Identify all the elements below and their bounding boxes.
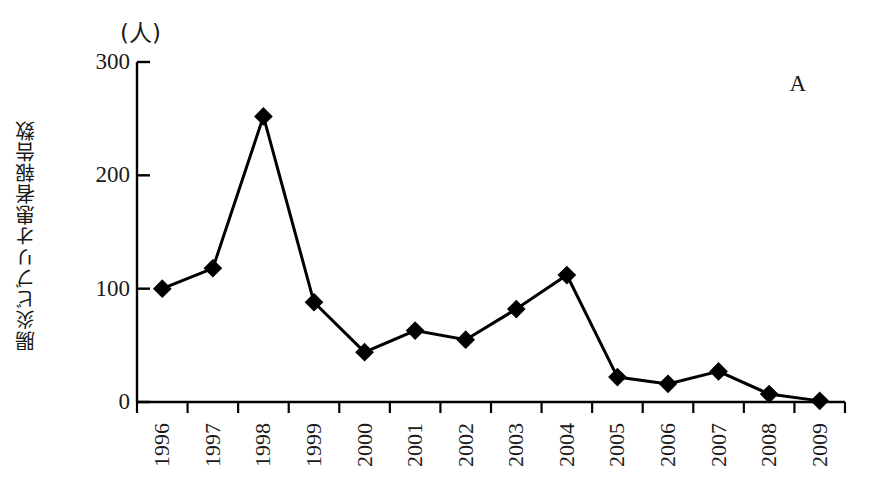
x-axis-tick-label-text: 2004 <box>556 423 578 467</box>
data-point-marker <box>154 280 171 297</box>
x-axis-tick-label-text: 1996 <box>151 423 173 467</box>
x-axis-tick-label-text: 2006 <box>657 423 679 467</box>
data-point-marker <box>761 386 778 403</box>
x-axis-tick-label: 2005 <box>604 404 630 484</box>
data-series <box>162 116 819 400</box>
x-axis-tick-label: 2008 <box>756 404 782 484</box>
x-axis-tick-label-text: 1999 <box>303 423 325 467</box>
y-axis-tick-label: 100 <box>70 277 130 300</box>
x-axis-tick-label: 1996 <box>149 404 175 484</box>
data-point-marker <box>457 331 474 348</box>
x-axis-tick-label-text: 2002 <box>455 423 477 467</box>
data-point-marker <box>407 322 424 339</box>
y-axis-title-text: 腸炎ビブリオ患者報告数 <box>11 120 40 351</box>
x-axis-tick-label: 2009 <box>807 404 833 484</box>
x-axis-tick-label: 1998 <box>250 404 276 484</box>
x-axis-tick-label-text: 2007 <box>708 423 730 467</box>
data-point-marker <box>558 267 575 284</box>
x-axis-tick-label: 2001 <box>402 404 428 484</box>
data-point-marker <box>508 301 525 318</box>
x-axis-tick-labels: 1996199719981999200020012002200320042005… <box>137 404 845 491</box>
x-axis-tick-label-text: 1997 <box>202 423 224 467</box>
x-axis-tick-label: 2004 <box>554 404 580 484</box>
data-point-marker <box>710 363 727 380</box>
chart-figure: 腸炎ビブリオ患者報告数 (人) A 0100200300 19961997199… <box>0 0 878 491</box>
x-axis-tick-label: 2002 <box>453 404 479 484</box>
y-axis-tick-label: 0 <box>70 390 130 413</box>
x-axis-tick-label: 2007 <box>706 404 732 484</box>
y-axis-tick-labels: 0100200300 <box>68 0 130 491</box>
line-chart-svg <box>137 62 845 402</box>
y-axis-tick-label: 300 <box>70 50 130 73</box>
data-point-marker <box>255 108 272 125</box>
x-axis-tick-label-text: 2008 <box>758 423 780 467</box>
data-point-marker <box>204 260 221 277</box>
axes <box>137 62 845 413</box>
y-axis-tick-label: 200 <box>70 163 130 186</box>
x-axis-tick-label: 2000 <box>352 404 378 484</box>
x-axis-tick-label-text: 1998 <box>252 423 274 467</box>
data-point-marker <box>609 369 626 386</box>
plot-area <box>137 62 845 402</box>
x-axis-tick-label-text: 2000 <box>354 423 376 467</box>
x-axis-tick-label-text: 2003 <box>505 423 527 467</box>
x-axis-tick-label-text: 2005 <box>606 423 628 467</box>
x-axis-tick-label: 1999 <box>301 404 327 484</box>
x-axis-tick-label-text: 2001 <box>404 423 426 467</box>
data-markers <box>154 108 828 409</box>
x-axis-tick-label: 2006 <box>655 404 681 484</box>
x-axis-tick-label: 1997 <box>200 404 226 484</box>
x-axis-tick-label-text: 2009 <box>809 423 831 467</box>
data-point-marker <box>660 375 677 392</box>
x-axis-tick-label: 2003 <box>503 404 529 484</box>
y-axis-title: 腸炎ビブリオ患者報告数 <box>8 60 42 410</box>
series-line <box>162 116 819 400</box>
